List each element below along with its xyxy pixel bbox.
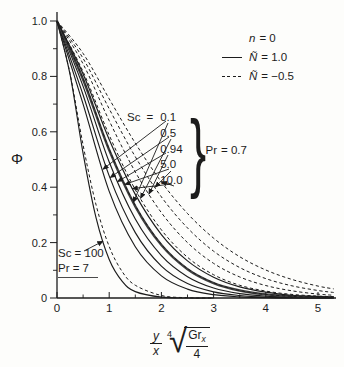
legend-n-value: = 0 (259, 29, 275, 48)
radicand-numerator: Grx (186, 329, 208, 347)
sc100-line2: Pr = 7 (58, 261, 104, 276)
root-index: 4 (167, 329, 172, 339)
y-over-x-fraction: y x (150, 330, 162, 358)
legend-row-solid: Ñ = 1.0 (222, 48, 294, 67)
y-tick-label: 0 (41, 292, 47, 304)
legend-row-n: n = 0 (222, 29, 294, 48)
fourth-root-radical: 4 √ Grx 4 (167, 327, 210, 360)
radicand-fraction: Grx 4 (184, 327, 210, 360)
sc-values-list: 0.1 0.5 0.94 5.0 10.0 (160, 110, 188, 189)
sc-label: Sc (127, 111, 140, 123)
x-tick-label: 3 (210, 302, 216, 314)
brace-icon: } (190, 110, 206, 191)
legend-N-value-2: = −0.5 (261, 67, 294, 86)
sc-value: 0.1 (160, 110, 188, 126)
solid-line-swatch-icon (222, 57, 242, 59)
figure-root: 01234500.20.40.60.81.0 n = 0 Ñ = 1.0 Ñ =… (0, 0, 344, 367)
pr-symbol: Pr (206, 144, 218, 156)
y-axis-label: Φ (11, 150, 23, 167)
x-tick-label: 5 (315, 302, 321, 314)
underline-mark (58, 277, 98, 278)
legend-blank-swatch (222, 38, 242, 40)
x-tick-label: 2 (158, 302, 164, 314)
legend-N-symbol-2: Ñ (249, 67, 257, 86)
sc100-line1: Sc = 100 (58, 246, 104, 261)
y-tick-label: 0.4 (32, 181, 47, 193)
fraction-denominator: x (153, 344, 159, 358)
x-axis-label: y x 4 √ Grx 4 (150, 327, 210, 360)
legend-N-symbol: Ñ (249, 48, 257, 67)
dashed-line-swatch-icon (222, 76, 242, 78)
sc-annotation-head: Sc= (127, 110, 153, 126)
x-tick-label: 0 (54, 302, 60, 314)
sc100-annotation: Sc = 100 Pr = 7 (58, 246, 104, 278)
sc-equals: = (146, 111, 153, 123)
pr-value: = 0.7 (221, 144, 247, 156)
y-tick-label: 0.6 (32, 126, 47, 138)
x-tick-label: 1 (106, 302, 112, 314)
fraction-numerator: y (150, 330, 162, 344)
x-tick-label: 4 (263, 302, 270, 314)
radicand-denominator: 4 (194, 347, 201, 360)
sc-value: 5.0 (160, 157, 188, 173)
y-tick-label: 1.0 (32, 15, 47, 27)
legend-n-symbol: n (249, 29, 255, 48)
legend: n = 0 Ñ = 1.0 Ñ = −0.5 (222, 29, 294, 86)
sc-value: 0.94 (160, 142, 188, 158)
sc-value: 0.5 (160, 126, 188, 142)
legend-row-dashed: Ñ = −0.5 (222, 67, 294, 86)
y-tick-label: 0.2 (32, 237, 47, 249)
sc-value: 10.0 (160, 173, 188, 189)
pr-label: Pr= 0.7 (206, 143, 247, 159)
sc-annotation: Sc= 0.1 0.5 0.94 5.0 10.0 } Pr= 0.7 (127, 110, 247, 191)
legend-N-value: = 1.0 (261, 48, 287, 67)
y-tick-label: 0.8 (32, 70, 47, 82)
